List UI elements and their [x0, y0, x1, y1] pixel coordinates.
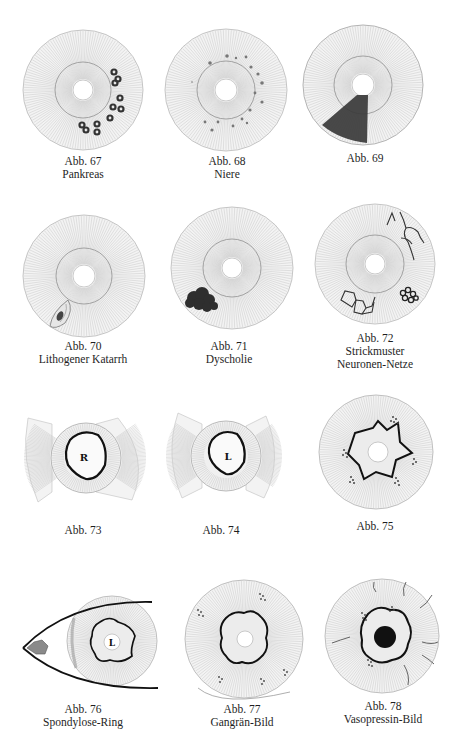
- iris-sector-l-illustration: L: [154, 380, 308, 520]
- figure-number: Abb. 74: [146, 524, 296, 537]
- figure-number: Abb. 70: [8, 340, 158, 353]
- figure-number: Abb. 68: [152, 155, 302, 168]
- figure-75: Abb. 75: [308, 380, 461, 550]
- figure-title: Spondylose-Ring: [8, 716, 158, 729]
- iris-dyscholie-illustration: [154, 180, 308, 340]
- figure-title-line2: Neuronen-Netze: [300, 358, 450, 371]
- figure-77: Abb. 77 Gangrän-Bild: [162, 560, 312, 728]
- figure-69: Abb. 69: [300, 0, 461, 180]
- figure-72: Abb. 72 Strickmuster Neuronen-Netze: [308, 180, 461, 380]
- eye-spondylose-ring-illustration: L: [0, 560, 162, 700]
- figure-title: Gangrän-Bild: [167, 716, 317, 729]
- figure-68: Abb. 68 Niere: [154, 0, 308, 180]
- figure-title: Strickmuster: [300, 345, 450, 358]
- figure-76: L Abb. 76 Spondylose-Ring: [0, 560, 162, 728]
- iris-gangraen-illustration: [162, 560, 312, 700]
- eye-side-letter: L: [109, 638, 116, 648]
- figure-number: Abb. 75: [300, 520, 450, 533]
- figure-67: Abb. 67 Pankreas: [0, 0, 154, 180]
- eye-side-letter: L: [224, 451, 231, 462]
- iris-vasopressin-illustration: [312, 560, 461, 700]
- iris-star-collarette-illustration: [308, 380, 461, 520]
- iris-strickmuster-illustration: [308, 180, 461, 340]
- figure-number: Abb. 71: [154, 340, 304, 353]
- figure-number: Abb. 73: [8, 524, 158, 537]
- figure-73: R Abb. 73: [0, 380, 154, 550]
- iris-lithogener-katarrh-illustration: [0, 180, 154, 340]
- figure-71: Abb. 71 Dyscholie: [154, 180, 308, 370]
- figure-74: L Abb. 74: [154, 380, 308, 550]
- eye-side-letter: R: [80, 452, 89, 463]
- figure-number: Abb. 67: [8, 155, 158, 168]
- iris-niere-illustration: [154, 0, 308, 150]
- figure-78: Abb. 78 Vasopressin-Bild: [312, 560, 461, 728]
- figure-number: Abb. 77: [167, 703, 317, 716]
- iris-wedge-illustration: [300, 0, 461, 150]
- figure-number: Abb. 76: [8, 703, 158, 716]
- figure-title: Vasopressin-Bild: [308, 713, 458, 726]
- figure-number: Abb. 69: [290, 152, 440, 165]
- figure-title: Dyscholie: [154, 353, 304, 366]
- figure-70: Abb. 70 Lithogener Katarrh: [0, 180, 154, 370]
- iris-sector-r-illustration: R: [0, 380, 154, 520]
- figure-number: Abb. 78: [308, 700, 458, 713]
- iris-pankreas-illustration: [0, 0, 154, 150]
- figure-title: Lithogener Katarrh: [8, 353, 158, 366]
- figure-number: Abb. 72: [300, 332, 450, 345]
